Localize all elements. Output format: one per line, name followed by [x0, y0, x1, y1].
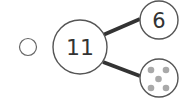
answer-radio-button[interactable]	[20, 39, 37, 56]
dot-icon	[148, 67, 155, 74]
bond-line-bottom	[103, 62, 140, 76]
whole-value: 11	[66, 35, 94, 60]
part-top-value: 6	[152, 9, 165, 33]
dot-icon	[155, 76, 162, 83]
dot-icon	[163, 85, 170, 92]
number-bond-diagram: 11 6	[0, 0, 189, 98]
dot-icon	[163, 67, 170, 74]
dot-icon	[148, 85, 155, 92]
bond-line-top	[103, 19, 140, 35]
